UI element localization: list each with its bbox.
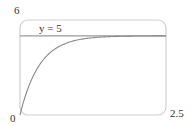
data-curve <box>20 36 166 115</box>
chart: 6 0 2.5 y = 5 <box>0 0 195 126</box>
x-tick-right: 2.5 <box>170 107 184 119</box>
plot-frame <box>20 20 166 115</box>
y-tick-top: 6 <box>14 4 20 16</box>
asymptote-label: y = 5 <box>39 22 62 34</box>
origin-label: 0 <box>10 112 16 124</box>
